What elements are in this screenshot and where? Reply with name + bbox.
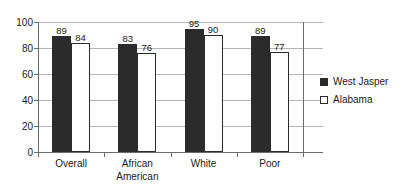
bar-chart: 020406080100 89 84 83 xyxy=(0,0,415,194)
bar-west-jasper-overall[interactable]: 89 xyxy=(52,36,71,152)
bar-west-jasper-poor[interactable]: 89 xyxy=(251,36,270,152)
bar-group-african-american: 83 76 xyxy=(104,22,170,152)
gridline xyxy=(38,152,323,153)
legend-item-west-jasper[interactable]: West Jasper xyxy=(320,74,388,89)
plot-area: 020406080100 89 84 83 xyxy=(38,22,303,152)
bar-value-label: 89 xyxy=(255,25,266,36)
bar-west-jasper-african-american[interactable]: 83 xyxy=(118,44,137,152)
bar-value-label: 77 xyxy=(274,41,285,52)
bar-west-jasper-white[interactable]: 95 xyxy=(185,29,204,153)
x-axis-label-overall: Overall xyxy=(38,157,104,183)
bar-alabama-poor[interactable]: 77 xyxy=(270,52,289,152)
bar-alabama-white[interactable]: 90 xyxy=(204,35,223,152)
x-axis-label-line1: African xyxy=(122,158,153,169)
bar-alabama-overall[interactable]: 84 xyxy=(71,43,90,152)
bar-group-poor: 89 77 xyxy=(237,22,303,152)
x-axis-labels: Overall African American White Poor xyxy=(38,157,303,183)
bar-value-label: 95 xyxy=(189,18,200,29)
legend-swatch-icon xyxy=(320,78,328,86)
legend: West Jasper Alabama xyxy=(320,74,388,110)
x-axis-label-poor: Poor xyxy=(237,157,303,183)
legend-swatch-icon xyxy=(320,96,328,104)
bar-groups: 89 84 83 76 xyxy=(38,22,303,152)
bar-alabama-african-american[interactable]: 76 xyxy=(137,53,156,152)
bar-group-overall: 89 84 xyxy=(38,22,104,152)
bar-value-label: 89 xyxy=(56,25,67,36)
y-axis-tick-label: 40 xyxy=(22,95,33,106)
y-axis-tick-label: 100 xyxy=(16,17,33,28)
x-axis-label-line1: Poor xyxy=(259,158,280,169)
bar-value-label: 83 xyxy=(123,33,134,44)
x-axis-label-african-american: African American xyxy=(104,157,170,183)
legend-label: West Jasper xyxy=(333,76,388,87)
x-axis-tick-mark xyxy=(303,152,304,157)
bar-group-white: 95 90 xyxy=(171,22,237,152)
bar-value-label: 76 xyxy=(142,42,153,53)
x-axis-label-line2: American xyxy=(104,170,170,183)
x-axis-label-white: White xyxy=(171,157,237,183)
y-axis-tick-label: 60 xyxy=(22,69,33,80)
bar-value-label: 90 xyxy=(208,24,219,35)
plot-right-border xyxy=(303,22,304,152)
bar-value-label: 84 xyxy=(75,32,86,43)
y-axis-tick-label: 80 xyxy=(22,43,33,54)
x-axis-label-line1: Overall xyxy=(55,158,87,169)
y-axis-tick-label: 20 xyxy=(22,121,33,132)
legend-item-alabama[interactable]: Alabama xyxy=(320,92,388,107)
x-axis-label-line1: White xyxy=(191,158,217,169)
legend-label: Alabama xyxy=(333,94,372,105)
y-axis-tick-label: 0 xyxy=(27,147,33,158)
